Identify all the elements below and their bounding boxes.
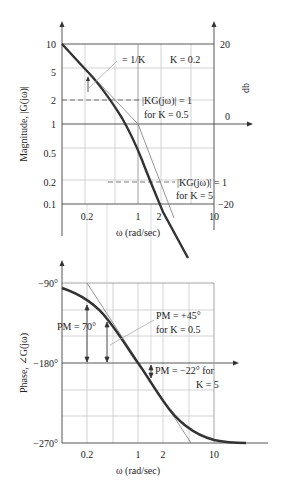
mag-xtick-10: 10 [209,211,219,222]
mag-tick-5: 5 [51,67,56,78]
phase-xtick-10: 10 [209,449,219,460]
ann-k02: K = 0.2 [170,54,200,65]
mag-tick-01: 0.1 [44,199,57,210]
ann-pm45-b: for K = 0.5 [156,324,201,335]
ann-invk: = 1/K [122,54,146,65]
phase-xtick-2: 2 [161,449,166,460]
mag-tick-10: 10 [46,39,56,50]
ann-kg-k05-a: |KG(jω)| = 1 [142,95,192,107]
bode-plot: 10 5 2 1 0.5 0.2 0.1 20 0 −20 db 0.2 1 2… [0,0,283,497]
mag-xtick-2: 2 [157,211,162,222]
mag-xtick-1: 1 [136,211,141,222]
ann-pm70: PM = 70° [57,321,96,332]
phase-xtick-02: 0.2 [81,449,94,460]
phase-xtick-1: 1 [136,449,141,460]
phase-curve [62,288,246,443]
mag-xtick-02: 0.2 [81,211,94,222]
ann-pm22-b: K = 5 [196,379,219,390]
mag-tick-02: 0.2 [44,177,57,188]
db-tick-20: 20 [220,39,230,50]
ann-pm22-a: PM = −22° for [155,365,215,376]
phase-x-arrow-icon [233,361,239,366]
mag-tick-1: 1 [51,119,56,130]
mag-xlabel: ω (rad/sec) [116,227,160,239]
db-tick-0: 0 [225,111,230,122]
ann-pm45-a: PM = +45° [156,310,201,321]
mag-ylabel: Magnitude, |G(jω)| [18,86,30,162]
phase-tick-270: −270° [33,438,58,449]
mag-tick-2: 2 [51,95,56,106]
ann-kg-k5-a: |KG(jω)| = 1 [177,177,227,189]
pm-arrows [85,305,153,378]
db-tick-m20: −20 [218,199,234,210]
phase-tick-90: −90° [38,278,58,289]
ann-kg-k5-b: for K = 5 [176,190,213,201]
magnitude-curve [62,44,188,258]
phase-ylabel: Phase, ∠G(jω) [18,333,30,393]
zero-db-arrow-icon [247,122,253,127]
mag-right-arrow-icon [212,21,217,27]
phase-y-arrow-icon [60,260,65,266]
magnitude-asymptote [62,44,174,218]
phase-xlabel: ω (rad/sec) [116,465,160,477]
ann-kg-k05-b: for K = 0.5 [144,109,189,120]
phase-tick-180: −180° [33,358,58,369]
invk-arrow-icon [86,76,90,81]
db-label: db [240,83,251,93]
invk-leader [89,61,117,88]
mag-left-arrow-icon [60,21,65,27]
mag-tick-05: 0.5 [44,148,57,159]
